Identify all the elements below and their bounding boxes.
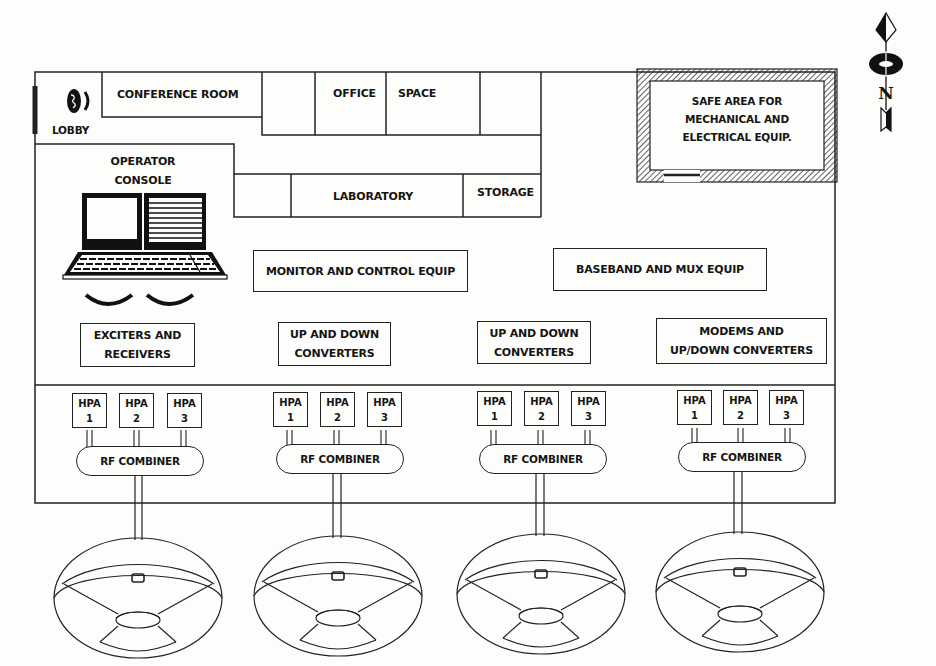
hpa-2-1: HPA 1 bbox=[273, 392, 308, 427]
hpa-label: HPA bbox=[78, 396, 101, 411]
hpa-number: 3 bbox=[181, 411, 188, 426]
north-letter: N bbox=[878, 84, 894, 103]
hpa-label: HPA bbox=[373, 395, 396, 410]
room-label-safe-area: SAFE AREA FOR MECHANICAL AND ELECTRICAL … bbox=[652, 92, 822, 146]
hpa-3-3: HPA 3 bbox=[571, 391, 606, 426]
converters-2-line-1: UP AND DOWN bbox=[489, 324, 578, 343]
hpa-number: 1 bbox=[287, 410, 294, 425]
converters-1-line-2: CONVERTERS bbox=[294, 344, 374, 363]
baseband-mux-label: BASEBAND AND MUX EQUIP bbox=[576, 260, 744, 279]
hpa-number: 1 bbox=[86, 411, 93, 426]
safe-area-line-2: MECHANICAL AND bbox=[652, 110, 822, 128]
modems-line-1: MODEMS AND bbox=[699, 322, 784, 341]
hpa-number: 2 bbox=[737, 408, 744, 423]
hpa-label: HPA bbox=[483, 394, 506, 409]
operator-line-1: OPERATOR bbox=[98, 152, 188, 171]
baseband-mux-equip: BASEBAND AND MUX EQUIP bbox=[553, 248, 767, 291]
hpa-label: HPA bbox=[125, 396, 148, 411]
room-label-conference: CONFERENCE ROOM bbox=[117, 85, 238, 104]
hpa-4-1: HPA 1 bbox=[677, 390, 712, 425]
hpa-3-1: HPA 1 bbox=[477, 391, 512, 426]
converters-2-line-2: CONVERTERS bbox=[494, 343, 574, 362]
modems-line-2: UP/DOWN CONVERTERS bbox=[670, 341, 813, 360]
hpa-number: 2 bbox=[334, 410, 341, 425]
hpa-number: 2 bbox=[538, 409, 545, 424]
room-label-office: OFFICE bbox=[333, 84, 376, 103]
antenna-2 bbox=[254, 536, 422, 656]
operator-line-2: CONSOLE bbox=[98, 171, 188, 190]
hpa-4-2: HPA 2 bbox=[723, 390, 758, 425]
computer-console-icon bbox=[63, 193, 227, 304]
hpa-1-1: HPA 1 bbox=[72, 393, 107, 428]
rf-combiner-2: RF COMBINER bbox=[276, 444, 404, 474]
hpa-label: HPA bbox=[326, 395, 349, 410]
floor-plan-diagram: N LOBBY CONFERENCE ROOM OFFICE SPACE OPE… bbox=[0, 0, 936, 666]
safe-area-line-1: SAFE AREA FOR bbox=[652, 92, 822, 110]
room-label-space: SPACE bbox=[398, 84, 436, 103]
hpa-label: HPA bbox=[775, 393, 798, 408]
hpa-label: HPA bbox=[729, 393, 752, 408]
hpa-1-3: HPA 3 bbox=[167, 393, 202, 428]
monitor-control-label: MONITOR AND CONTROL EQUIP bbox=[266, 262, 455, 281]
monitor-control-equip: MONITOR AND CONTROL EQUIP bbox=[253, 250, 468, 292]
modems-converters-equip: MODEMS AND UP/DOWN CONVERTERS bbox=[656, 318, 827, 364]
antenna-dishes bbox=[54, 532, 824, 658]
rf-combiner-3: RF COMBINER bbox=[479, 444, 607, 474]
room-label-operator: OPERATOR CONSOLE bbox=[98, 152, 188, 190]
hpa-3-2: HPA 2 bbox=[524, 391, 559, 426]
room-label-storage: STORAGE bbox=[477, 183, 534, 202]
up-down-converters-1: UP AND DOWN CONVERTERS bbox=[278, 322, 391, 366]
hpa-number: 1 bbox=[491, 409, 498, 424]
up-down-converters-2: UP AND DOWN CONVERTERS bbox=[477, 321, 591, 364]
rf-combiner-4: RF COMBINER bbox=[678, 442, 806, 472]
hpa-number: 3 bbox=[585, 409, 592, 424]
antenna-1 bbox=[54, 538, 222, 658]
exciters-receivers-equip: EXCITERS AND RECEIVERS bbox=[80, 323, 195, 367]
hpa-label: HPA bbox=[530, 394, 553, 409]
room-label-laboratory: LABORATORY bbox=[333, 187, 413, 206]
hpa-label: HPA bbox=[683, 393, 706, 408]
hpa-label: HPA bbox=[577, 394, 600, 409]
room-label-lobby: LOBBY bbox=[52, 121, 89, 140]
hpa-label: HPA bbox=[173, 396, 196, 411]
hpa-number: 1 bbox=[691, 408, 698, 423]
hpa-2-2: HPA 2 bbox=[320, 392, 355, 427]
safe-area-line-3: ELECTRICAL EQUIP. bbox=[652, 128, 822, 146]
north-arrow-icon bbox=[869, 13, 903, 131]
hpa-4-3: HPA 3 bbox=[769, 390, 804, 425]
rf-combiner-1: RF COMBINER bbox=[76, 446, 204, 476]
hpa-number: 3 bbox=[381, 410, 388, 425]
hpa-1-2: HPA 2 bbox=[119, 393, 154, 428]
hpa-label: HPA bbox=[279, 395, 302, 410]
antenna-4 bbox=[656, 532, 824, 652]
lobby-logo-icon bbox=[67, 89, 88, 113]
antenna-3 bbox=[457, 534, 625, 654]
converters-1-line-1: UP AND DOWN bbox=[290, 325, 379, 344]
exciters-line-1: EXCITERS AND bbox=[94, 326, 181, 345]
hpa-number: 2 bbox=[133, 411, 140, 426]
exciters-line-2: RECEIVERS bbox=[104, 345, 170, 364]
hpa-2-3: HPA 3 bbox=[367, 392, 402, 427]
hpa-number: 3 bbox=[783, 408, 790, 423]
